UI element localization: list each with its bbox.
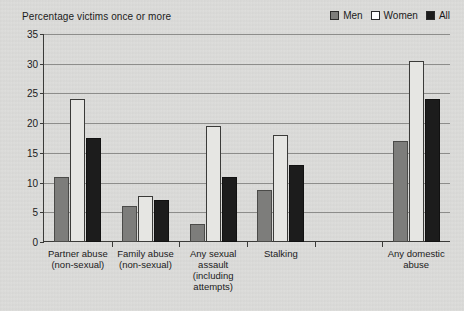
bar-all xyxy=(425,99,440,242)
legend-label: Men xyxy=(343,10,362,21)
x-axis-category-label: Any domestic abuse xyxy=(382,248,450,270)
plot-area: 05101520253035Partner abuse (non-sexual)… xyxy=(44,34,450,242)
gridline xyxy=(44,153,450,154)
bar-men xyxy=(393,141,408,242)
bar-women xyxy=(273,135,288,242)
y-axis-tick-mark xyxy=(40,183,44,184)
x-axis-category-label: Stalking xyxy=(247,248,315,259)
y-axis-tick-label: 15 xyxy=(27,147,38,158)
y-axis-tick-label: 35 xyxy=(27,29,38,40)
bar-men xyxy=(54,177,69,242)
y-axis-tick-mark xyxy=(40,34,44,35)
legend-entry: Women xyxy=(371,10,418,21)
legend-label: Women xyxy=(384,10,418,21)
x-axis-separator-tick xyxy=(112,242,113,247)
bar-women xyxy=(206,126,221,242)
chart-title: Percentage victims once or more xyxy=(22,11,171,22)
x-axis-separator-tick xyxy=(247,242,248,247)
bar-all xyxy=(289,165,304,242)
x-axis-separator-tick xyxy=(179,242,180,247)
bar-women xyxy=(138,196,153,242)
gridline xyxy=(44,64,450,65)
chart-legend: MenWomenAll xyxy=(330,10,450,21)
y-axis-tick-mark xyxy=(40,123,44,124)
legend-entry: Men xyxy=(330,10,362,21)
y-axis-line xyxy=(43,34,44,242)
gridline xyxy=(44,123,450,124)
bar-women xyxy=(409,61,424,242)
y-axis-tick-mark xyxy=(40,64,44,65)
gridline xyxy=(44,93,450,94)
bar-all xyxy=(222,177,237,242)
x-axis-separator-tick xyxy=(382,242,383,247)
y-axis-tick-label: 20 xyxy=(27,118,38,129)
gridline xyxy=(44,212,450,213)
y-axis-tick-label: 30 xyxy=(27,58,38,69)
legend-swatch-icon xyxy=(371,11,380,20)
x-axis-separator-tick xyxy=(315,242,316,247)
y-axis-tick-mark xyxy=(40,153,44,154)
legend-swatch-icon xyxy=(426,11,435,20)
y-axis-tick-label: 0 xyxy=(32,237,38,248)
y-axis-tick-mark xyxy=(40,93,44,94)
gridline xyxy=(44,34,450,35)
bar-women xyxy=(70,99,85,242)
bar-all xyxy=(154,200,169,242)
y-axis-tick-mark xyxy=(40,242,44,243)
y-axis-tick-label: 5 xyxy=(32,207,38,218)
legend-swatch-icon xyxy=(330,11,339,20)
x-axis-category-label: Partner abuse (non-sexual) xyxy=(44,248,112,270)
bar-all xyxy=(86,138,101,242)
bar-men xyxy=(122,206,137,242)
y-axis-tick-label: 25 xyxy=(27,88,38,99)
y-axis-tick-label: 10 xyxy=(27,177,38,188)
y-axis-tick-mark xyxy=(40,212,44,213)
gridline xyxy=(44,183,450,184)
legend-entry: All xyxy=(426,10,450,21)
chart-figure: Percentage victims once or more MenWomen… xyxy=(0,0,464,311)
bar-men xyxy=(190,224,205,242)
legend-label: All xyxy=(439,10,450,21)
x-axis-category-label: Family abuse (non-sexual) xyxy=(112,248,180,270)
bar-men xyxy=(257,190,272,242)
x-axis-category-label: Any sexual assault (including attempts) xyxy=(179,248,247,292)
